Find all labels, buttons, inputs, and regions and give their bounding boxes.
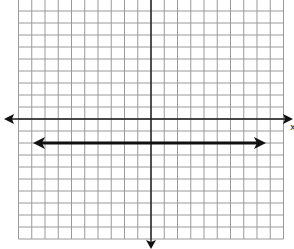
x-axis-label: x <box>290 122 294 132</box>
coordinate-plane: x <box>0 0 294 249</box>
plotted-line-y-equals-neg-2 <box>33 137 266 149</box>
axes: x <box>4 0 294 249</box>
